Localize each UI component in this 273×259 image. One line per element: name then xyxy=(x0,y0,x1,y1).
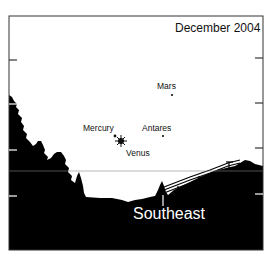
antares-dot xyxy=(162,135,164,137)
chart-title: December 2004 xyxy=(175,22,260,34)
direction-label: Southeast xyxy=(133,206,205,222)
mars-dot xyxy=(171,94,173,96)
mercury-dot xyxy=(114,135,117,138)
label-mercury: Mercury xyxy=(83,124,114,133)
label-mars: Mars xyxy=(157,82,176,91)
label-venus: Venus xyxy=(126,149,150,158)
label-antares: Antares xyxy=(142,124,171,133)
